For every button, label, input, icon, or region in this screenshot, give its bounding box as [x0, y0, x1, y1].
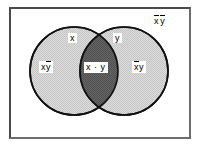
label-right-x: x [134, 62, 139, 72]
venn-circles-canvas [0, 0, 201, 147]
label-universe-x: x [154, 16, 159, 26]
label-region-intersection: x · y [84, 62, 108, 73]
label-left-y: y [46, 62, 51, 72]
label-universe-complement: x y [152, 15, 167, 27]
venn-diagram-figure: x y x y xy x · y xy [0, 0, 201, 147]
label-region-right-only: xy [132, 61, 146, 73]
label-set-y: y [113, 33, 122, 43]
label-universe-y: y [160, 16, 165, 26]
overbar-y-left: y [46, 61, 51, 72]
label-region-left-only: xy [39, 61, 53, 73]
overbar-x: x [154, 15, 159, 26]
overbar-x-right: x [134, 61, 139, 72]
label-right-y: y [139, 62, 144, 72]
overbar-y: y [160, 15, 165, 26]
label-set-x: x [68, 33, 77, 43]
